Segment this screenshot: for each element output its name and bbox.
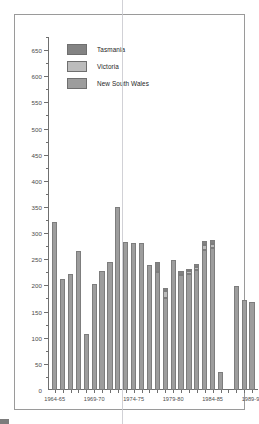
bar-segment-nsw — [92, 284, 97, 390]
bar — [76, 251, 81, 390]
x-tick — [142, 390, 143, 393]
chart-figure: Tasmania Victoria New South Wales 501001… — [14, 14, 245, 410]
y-tick-minor — [46, 63, 48, 64]
caption-swatch — [0, 419, 9, 424]
bar-segment-nsw — [76, 251, 81, 390]
legend-label-victoria: Victoria — [97, 63, 119, 70]
x-tick — [221, 390, 222, 393]
y-tick-minor — [46, 89, 48, 90]
x-tick — [189, 390, 190, 393]
x-tick — [181, 390, 182, 393]
y-tick-major — [44, 181, 48, 182]
x-tick — [94, 390, 95, 393]
y-tick-minor — [46, 115, 48, 116]
bar — [52, 222, 57, 390]
bar — [234, 286, 239, 390]
legend-item-victoria: Victoria — [67, 60, 149, 73]
x-tick — [110, 390, 111, 393]
bar — [202, 241, 207, 390]
x-tick — [55, 390, 56, 393]
bar — [99, 271, 104, 390]
y-tick-minor — [46, 194, 48, 195]
x-tick — [165, 390, 166, 393]
legend-label-new-south-wales: New South Wales — [97, 80, 149, 87]
legend-swatch-new-south-wales — [67, 78, 87, 89]
bar — [115, 207, 120, 390]
bar-segment-nsw — [84, 334, 89, 390]
x-axis-label: 1964-65 — [44, 396, 65, 402]
bar-segment-nsw — [210, 248, 215, 390]
y-tick-major — [44, 338, 48, 339]
bar-segment-nsw — [68, 274, 73, 390]
bar — [242, 300, 247, 390]
bar — [155, 262, 160, 390]
x-tick — [118, 390, 119, 393]
y-tick-minor — [46, 272, 48, 273]
x-tick — [244, 390, 245, 393]
y-tick-minor — [46, 142, 48, 143]
bar-segment-nsw — [234, 286, 239, 390]
y-tick-major — [44, 207, 48, 208]
x-tick — [228, 390, 229, 393]
y-tick-minor — [46, 377, 48, 378]
y-tick-major — [44, 155, 48, 156]
y-tick-major — [44, 364, 48, 365]
y-tick-minor — [46, 220, 48, 221]
y-tick-major — [44, 102, 48, 103]
bar-segment-nsw — [186, 274, 191, 390]
bar-segment-nsw — [115, 207, 120, 390]
y-axis-label: 50 — [35, 360, 42, 367]
y-tick-minor — [46, 351, 48, 352]
bar-segment-nsw — [178, 275, 183, 390]
bar-segment-tas — [155, 262, 160, 271]
bar — [139, 243, 144, 390]
y-axis-label: 150 — [31, 308, 42, 315]
legend-item-new-south-wales: New South Wales — [67, 77, 149, 90]
y-axis-label: 400 — [31, 177, 42, 184]
bar-segment-nsw — [155, 272, 160, 390]
y-axis-label: 600 — [31, 73, 42, 80]
x-tick — [213, 390, 214, 393]
bar — [92, 284, 97, 390]
bar-segment-nsw — [202, 250, 207, 390]
bar — [60, 279, 65, 390]
x-axis-label: 1974-75 — [123, 396, 144, 402]
x-tick — [71, 390, 72, 393]
y-tick-major — [44, 312, 48, 313]
y-tick-major — [44, 285, 48, 286]
bar-segment-nsw — [139, 243, 144, 390]
y-tick-major — [44, 233, 48, 234]
y-axis-label: 100 — [31, 334, 42, 341]
bar — [194, 264, 199, 390]
legend-swatch-tasmania — [67, 44, 87, 55]
bar — [218, 372, 223, 390]
x-tick — [149, 390, 150, 393]
bar — [210, 240, 215, 390]
bar-segment-nsw — [218, 372, 223, 390]
bar-segment-nsw — [163, 298, 168, 390]
bar-segment-nsw — [147, 265, 152, 391]
y-tick-minor — [46, 325, 48, 326]
bar-segment-nsw — [123, 242, 128, 390]
y-axis-label: 200 — [31, 282, 42, 289]
x-tick — [197, 390, 198, 393]
bar — [84, 334, 89, 390]
bar-segment-nsw — [242, 300, 247, 390]
bar — [249, 302, 254, 390]
bar — [68, 274, 73, 390]
y-axis-label: 650 — [31, 47, 42, 54]
x-tick — [78, 390, 79, 393]
bar-segment-nsw — [60, 279, 65, 390]
x-axis-label: 1969-70 — [84, 396, 105, 402]
legend-swatch-victoria — [67, 61, 87, 72]
bar — [163, 288, 168, 390]
y-axis-label: 550 — [31, 99, 42, 106]
y-tick-minor — [46, 298, 48, 299]
y-tick-major — [44, 129, 48, 130]
bar-segment-nsw — [107, 262, 112, 390]
bar-segment-nsw — [194, 270, 199, 390]
y-axis — [48, 37, 49, 390]
y-tick-minor — [46, 246, 48, 247]
y-tick-major — [44, 259, 48, 260]
bar — [171, 260, 176, 390]
